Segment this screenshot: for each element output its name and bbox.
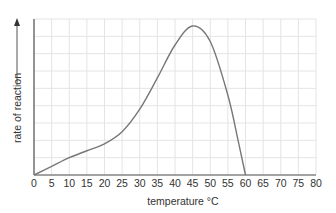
x-tick-label: 0 (31, 177, 37, 189)
up-arrow-icon (14, 18, 20, 26)
rate-vs-temperature-chart: 05101520253035404550556065707580 tempera… (0, 0, 336, 213)
x-tick-label: 20 (99, 177, 111, 189)
x-tick-label: 55 (222, 177, 234, 189)
x-tick-label: 30 (134, 177, 146, 189)
x-tick-label: 10 (63, 177, 75, 189)
grid-lines (34, 19, 316, 175)
x-tick-label: 40 (169, 177, 181, 189)
x-tick-label: 45 (187, 177, 199, 189)
x-tick-label: 25 (116, 177, 128, 189)
x-axis-label: temperature °C (147, 195, 219, 207)
x-tick-label: 15 (81, 177, 93, 189)
x-tick-label: 70 (275, 177, 287, 189)
x-tick-label: 75 (293, 177, 305, 189)
y-axis-label-group: rate of reaction (11, 18, 23, 143)
x-tick-label: 60 (240, 177, 252, 189)
x-tick-label: 5 (49, 177, 55, 189)
x-tick-label: 50 (204, 177, 216, 189)
x-tick-label: 35 (152, 177, 164, 189)
x-tick-labels: 05101520253035404550556065707580 (31, 177, 322, 189)
x-tick-label: 80 (310, 177, 322, 189)
x-tick-label: 65 (257, 177, 269, 189)
